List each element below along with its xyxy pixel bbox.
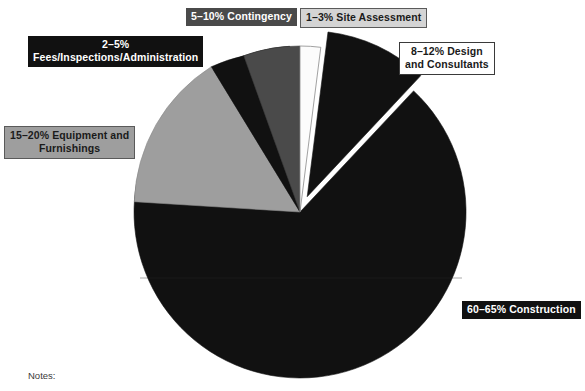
label-fees-inspections-administration[interactable]: 2–5% Fees/Inspections/Administration	[28, 36, 203, 67]
label-site-assessment[interactable]: 1–3% Site Assessment	[300, 8, 427, 28]
label-design-and-consultants[interactable]: 8–12% Design and Consultants	[399, 42, 495, 75]
notes-label: Notes:	[28, 370, 55, 381]
label-site-assessment-text: 1–3% Site Assessment	[306, 11, 421, 23]
label-contingency-text: 5–10% Contingency	[191, 10, 292, 22]
label-contingency[interactable]: 5–10% Contingency	[186, 8, 297, 26]
label-fees-line1: 2–5%	[33, 38, 198, 51]
label-equipment-line1: 15–20% Equipment and	[10, 129, 129, 142]
label-fees-line2: Fees/Inspections/Administration	[33, 51, 198, 64]
label-construction-text: 60–65% Construction	[467, 303, 576, 315]
label-equipment-and-furnishings[interactable]: 15–20% Equipment and Furnishings	[4, 126, 135, 159]
label-equipment-line2: Furnishings	[10, 142, 129, 155]
label-design-line1: 8–12% Design	[405, 45, 489, 58]
label-construction[interactable]: 60–65% Construction	[462, 301, 581, 319]
label-design-line2: and Consultants	[405, 58, 489, 71]
pie-chart-figure: 5–10% Contingency 1–3% Site Assessment 2…	[0, 0, 585, 391]
